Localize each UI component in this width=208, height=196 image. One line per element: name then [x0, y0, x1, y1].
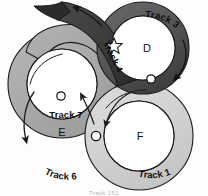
node-d-label: D — [143, 42, 151, 54]
diagram-canvas: Track 3 Track 4 Track 7 Track 6 Track 1 … — [0, 0, 208, 196]
junction-center-marker — [91, 131, 100, 140]
track-6-label: Track 6 — [44, 166, 78, 182]
figure-caption: Track 151 — [0, 189, 208, 196]
junction-top-right-marker — [147, 75, 155, 83]
track-7-label: Track 7 — [49, 109, 82, 120]
node-f-label: F — [137, 130, 144, 142]
track-diagram-svg: Track 3 Track 4 Track 7 Track 6 Track 1 … — [0, 0, 208, 196]
node-e-label: E — [58, 126, 65, 138]
junction-left-marker — [57, 92, 65, 100]
